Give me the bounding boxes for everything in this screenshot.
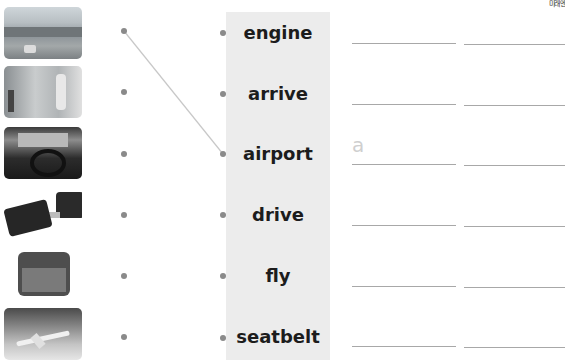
word-seatbelt: seatbelt: [226, 326, 330, 348]
blank-2a[interactable]: [352, 104, 456, 105]
blank-3a[interactable]: [352, 164, 456, 165]
word-engine: engine: [226, 22, 330, 44]
word-arrive: arrive: [226, 83, 330, 105]
picture-dot-4[interactable]: [121, 212, 127, 218]
word-fly: fly: [226, 265, 330, 287]
picture-dot-1[interactable]: [121, 28, 127, 34]
blank-2b[interactable]: [464, 105, 565, 106]
picture-dot-6[interactable]: [121, 334, 127, 340]
blank-5a[interactable]: [352, 286, 456, 287]
engine-photo: [4, 248, 82, 300]
blank-3b[interactable]: [464, 165, 565, 166]
publisher-logo: 미래엔: [525, 0, 565, 8]
answer-hint: a: [352, 133, 364, 157]
fly-photo: [4, 308, 82, 360]
word-drive: drive: [226, 204, 330, 226]
word-airport: airport: [226, 143, 330, 165]
drive-photo: [4, 127, 82, 179]
blank-6b[interactable]: [464, 347, 565, 348]
seatbelt-photo: [4, 188, 82, 240]
word-panel: [226, 12, 330, 360]
blank-5b[interactable]: [464, 287, 565, 288]
blank-4a[interactable]: [352, 225, 456, 226]
blank-1b[interactable]: [464, 44, 565, 45]
airport-photo: [4, 7, 82, 59]
blank-1a[interactable]: [352, 43, 456, 44]
blank-6a[interactable]: [352, 346, 456, 347]
arrive-photo: [4, 66, 82, 118]
picture-dot-3[interactable]: [121, 151, 127, 157]
picture-dot-5[interactable]: [121, 273, 127, 279]
blank-4b[interactable]: [464, 226, 565, 227]
picture-dot-2[interactable]: [121, 89, 127, 95]
